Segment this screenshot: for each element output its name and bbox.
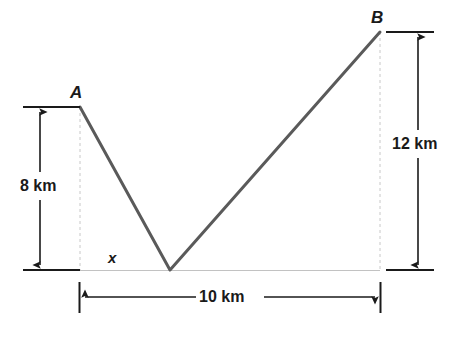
path-a-to-v-to-b — [80, 32, 380, 270]
point-label-b: B — [371, 9, 383, 26]
dimension-label-12km: 12 km — [390, 136, 439, 152]
point-label-a: A — [70, 84, 82, 101]
construction-guides — [80, 32, 380, 271]
variable-label-x: x — [108, 250, 116, 265]
geometry-diagram: 8 km 12 km 10 km A B x — [0, 0, 462, 337]
diagram-canvas — [0, 0, 462, 337]
path-polyline — [80, 32, 380, 270]
dimension-label-10km: 10 km — [197, 289, 246, 305]
dimension-label-8km: 8 km — [18, 178, 58, 194]
